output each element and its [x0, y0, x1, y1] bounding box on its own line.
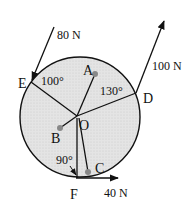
force-40N-label: 40 N	[104, 186, 128, 200]
force-100N-label: 100 N	[152, 59, 182, 73]
point-label-F: F	[70, 187, 78, 202]
peg-C	[85, 169, 91, 175]
point-label-C: C	[95, 161, 104, 176]
force-diagram: 80 N 100 N 40 N 100° 130° 90° E A D O B …	[0, 0, 192, 207]
angle-100-label: 100°	[41, 74, 64, 88]
point-label-E: E	[18, 76, 27, 91]
point-label-O: O	[79, 118, 89, 133]
force-100N-arrow	[136, 21, 164, 93]
point-label-B: B	[51, 131, 60, 146]
angle-90-label: 90°	[56, 153, 73, 167]
point-label-A: A	[83, 63, 94, 78]
force-80N-label: 80 N	[57, 28, 81, 42]
disc	[20, 57, 140, 177]
angle-130-label: 130°	[100, 84, 123, 98]
point-label-D: D	[143, 91, 153, 106]
